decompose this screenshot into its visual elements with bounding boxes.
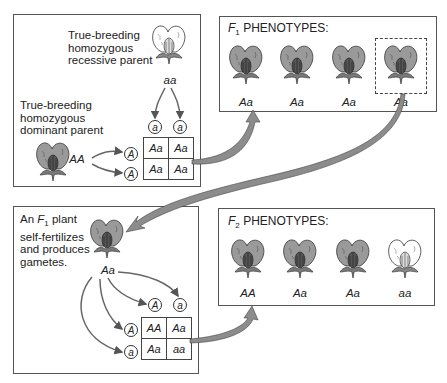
arrow-to-f2-panel <box>190 306 258 343</box>
arrow-to-f1-panel <box>192 110 260 164</box>
gamete-arrows-selfing <box>81 272 178 352</box>
gamete-arrows-parental <box>92 88 180 173</box>
arrows-layer <box>0 0 447 383</box>
arrow-f1-to-selfing <box>126 94 405 232</box>
